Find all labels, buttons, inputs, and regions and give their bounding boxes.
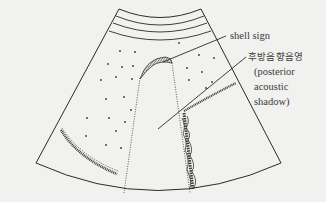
shadow-leader-line [158,57,246,129]
shadow-en-label-line3: shadow) [254,95,290,108]
leader-lines [158,36,246,129]
abdominal-wall-layers [109,16,211,40]
diagram-canvas: shell sign 후방음향음영 (posterior acoustic sh… [0,0,326,202]
left-curved-echo-band [61,128,118,174]
shadow-en-label-line1: (posterior [254,65,295,78]
shell-sign-label: shell sign [230,29,270,42]
posterior-acoustic-shadow [124,63,190,193]
shadow-korean-label: 후방음향음영 [248,50,303,63]
right-oblique-echo-band [184,83,236,111]
liver-parenchyma-dots [85,42,215,149]
shadow-en-label-line2: acoustic [254,80,288,93]
